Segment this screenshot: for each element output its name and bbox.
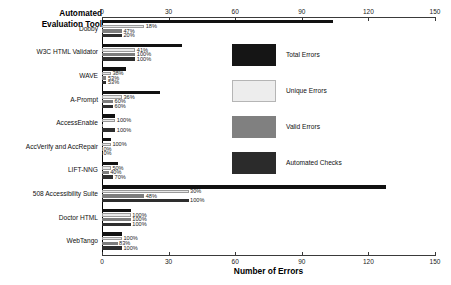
bar-value-label: 100% xyxy=(112,141,126,147)
x-tick-label-bottom-30: 30 xyxy=(165,258,172,265)
x-tick-bottom-90 xyxy=(302,252,303,256)
bar-valid xyxy=(102,171,109,174)
bar-value-label: 20% xyxy=(123,32,134,38)
bar-value-label: 100% xyxy=(117,117,131,123)
x-tick-label-bottom-90: 90 xyxy=(298,258,305,265)
bar-value-label: 60% xyxy=(115,103,126,109)
legend-label-unique: Unique Errors xyxy=(286,87,327,94)
bar-total xyxy=(102,20,333,23)
category-label: 508 Accessibility Suite xyxy=(33,190,98,197)
legend-swatch-total xyxy=(232,44,276,66)
legend-swatch-unique xyxy=(232,80,276,102)
x-tick-label-bottom-0: 0 xyxy=(100,258,104,265)
category-label: AccessEnable xyxy=(56,119,98,126)
x-tick-label-top-0: 0 xyxy=(100,8,104,15)
legend-swatch-checks xyxy=(232,152,276,174)
bar-checks xyxy=(102,199,189,202)
x-tick-bottom-30 xyxy=(169,252,170,256)
bar-valid xyxy=(102,242,118,245)
x-tick-label-top-120: 120 xyxy=(363,8,374,15)
bar-valid xyxy=(102,29,122,32)
legend-label-valid: Valid Errors xyxy=(286,123,320,130)
category-label: LIFT-NNG xyxy=(68,166,98,173)
bar-value-label: 100% xyxy=(190,197,204,203)
bar-checks xyxy=(102,105,113,108)
y-axis-title-line1: Automated xyxy=(18,8,102,19)
category-label: Doctor HTML xyxy=(59,214,98,221)
x-tick-bottom-60 xyxy=(235,252,236,256)
top-axis-line xyxy=(102,17,435,18)
bar-checks xyxy=(102,152,103,155)
category-label: Dobby xyxy=(79,25,98,32)
bar-value-label: 53% xyxy=(108,79,119,85)
bar-total xyxy=(102,209,131,212)
x-tick-bottom-120 xyxy=(368,252,369,256)
bar-value-label: 100% xyxy=(123,245,137,251)
bar-checks xyxy=(102,81,106,84)
bar-valid xyxy=(102,147,103,150)
bar-checks xyxy=(102,34,122,37)
x-tick-label-top-30: 30 xyxy=(165,8,172,15)
x-tick-label-bottom-120: 120 xyxy=(363,258,374,265)
bar-unique xyxy=(102,48,135,51)
category-label: WebTango xyxy=(67,237,98,244)
bar-checks xyxy=(102,175,113,178)
bar-checks xyxy=(102,128,115,131)
bar-value-label: 100% xyxy=(137,56,151,62)
x-axis-label: Number of Errors xyxy=(102,266,435,276)
x-tick-top-150 xyxy=(435,17,436,21)
bottom-axis-line xyxy=(102,255,435,256)
bar-value-label: 48% xyxy=(146,193,157,199)
category-label: WAVE xyxy=(79,72,98,79)
bar-total xyxy=(102,114,115,117)
bar-valid xyxy=(102,218,131,221)
bar-unique xyxy=(102,213,131,216)
bar-value-label: 100% xyxy=(117,127,131,133)
x-tick-bottom-0 xyxy=(102,252,103,256)
x-tick-label-top-90: 90 xyxy=(298,8,305,15)
bar-unique xyxy=(102,119,115,122)
x-tick-label-bottom-150: 150 xyxy=(430,258,441,265)
bar-checks xyxy=(102,57,135,60)
x-tick-bottom-150 xyxy=(435,252,436,256)
bar-value-label: 70% xyxy=(115,174,126,180)
bar-valid xyxy=(102,124,103,127)
x-tick-label-bottom-60: 60 xyxy=(232,258,239,265)
x-tick-label-top-60: 60 xyxy=(232,8,239,15)
category-label: AccVerify and AccRepair xyxy=(26,143,98,150)
category-label: A-Prompt xyxy=(70,96,98,103)
bar-total xyxy=(102,185,386,188)
legend-label-total: Total Errors xyxy=(286,51,320,58)
bar-chart: Automated Evaluation Tool 00303060609090… xyxy=(0,0,451,285)
bar-checks xyxy=(102,223,131,226)
bar-valid xyxy=(102,194,144,197)
bar-value-label: 0% xyxy=(104,150,112,156)
bar-valid xyxy=(102,100,113,103)
legend-swatch-valid xyxy=(232,116,276,138)
bar-value-label: 30% xyxy=(190,188,201,194)
bar-valid xyxy=(102,76,106,79)
bar-value-label: 18% xyxy=(146,23,157,29)
bar-valid xyxy=(102,53,135,56)
x-tick-top-120 xyxy=(368,17,369,21)
category-label: W3C HTML Validator xyxy=(36,48,98,55)
bar-value-label: 100% xyxy=(132,221,146,227)
legend-label-checks: Automated Checks xyxy=(286,159,342,166)
bar-checks xyxy=(102,246,122,249)
bar-total xyxy=(102,138,111,141)
x-tick-label-top-150: 150 xyxy=(430,8,441,15)
bar-total xyxy=(102,232,122,235)
